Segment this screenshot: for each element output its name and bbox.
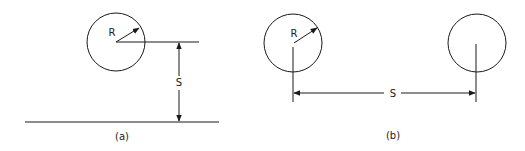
panel-a: R S (a) bbox=[25, 13, 219, 142]
distance-label-a: S bbox=[176, 77, 182, 88]
radius-label-b: R bbox=[291, 28, 298, 39]
conductor-spacing-diagram: R S (a) R S (b) bbox=[0, 0, 525, 151]
radius-arrow-a bbox=[116, 28, 139, 42]
conductor-circle-b-right bbox=[448, 14, 506, 72]
distance-label-b: S bbox=[390, 88, 396, 99]
radius-label-a: R bbox=[109, 27, 116, 38]
caption-b: (b) bbox=[386, 130, 400, 141]
panel-b: R S (b) bbox=[264, 14, 506, 141]
caption-a: (a) bbox=[115, 131, 129, 142]
